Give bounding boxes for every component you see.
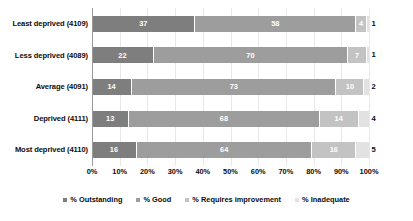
segment-value: 13 [106,115,114,122]
legend-item[interactable]: % Requires improvement [185,196,281,203]
segment-value: 70 [246,52,254,59]
bar-track: 227071 [92,40,369,72]
category-rows: Least deprived (4109)375841Less deprived… [0,8,413,166]
x-axis-tick-label: 40% [195,168,210,175]
x-axis-tick-label: 50% [223,168,238,175]
chart-row: Average (4091)1473102 [0,71,413,103]
legend-label: % Inadequate [302,196,350,203]
stacked-bar: 1368144 [92,111,369,127]
legend-label: % Good [143,196,171,203]
segment-value: 73 [230,83,238,90]
legend-item[interactable]: % Inadequate [295,196,350,203]
x-axis-tick-label: 100% [360,168,379,175]
bar-segment: 68 [128,111,318,127]
segment-value: 68 [220,115,228,122]
stacked-bar: 1473102 [92,79,369,95]
bar-segment: 2 [363,79,369,95]
category-label: Deprived (4111) [0,115,92,123]
segment-value: 22 [118,52,126,59]
bar-segment: 64 [136,142,312,158]
chart-row: Less deprived (4089)227071 [0,40,413,72]
x-axis: 0%10%20%30%40%50%60%70%80%90%100% [92,168,369,182]
x-axis-tick-label: 10% [112,168,127,175]
segment-value: 64 [220,146,228,153]
bar-track: 1473102 [92,71,369,103]
chart-legend: % Outstanding% Good% Requires improvemen… [0,196,413,203]
segment-value: 37 [139,20,147,27]
bar-segment: 37 [92,16,194,32]
plot-area: Least deprived (4109)375841Less deprived… [0,8,413,166]
segment-value: 2 [371,83,375,91]
x-axis-tick-label: 60% [251,168,266,175]
bar-segment: 22 [92,47,153,63]
bar-segment: 16 [92,142,136,158]
legend-item[interactable]: % Good [136,196,171,203]
stacked-bar: 375841 [92,16,369,32]
bar-segment: 58 [194,16,355,32]
segment-value: 16 [330,146,338,153]
chart-row: Most deprived (4110)1664165 [0,134,413,166]
bar-segment: 5 [355,142,369,158]
legend-item[interactable]: % Outstanding [63,196,122,203]
bar-segment: 1 [366,16,369,32]
segment-value: 16 [110,146,118,153]
category-label: Average (4091) [0,83,92,91]
legend-label: % Outstanding [70,196,122,203]
stacked-bar: 1664165 [92,142,369,158]
x-axis-tick-label: 80% [306,168,321,175]
category-label: Most deprived (4110) [0,146,92,154]
bar-segment: 14 [92,79,131,95]
bar-segment: 16 [311,142,355,158]
bar-segment: 70 [153,47,347,63]
chart-row: Deprived (4111)1368144 [0,103,413,135]
bar-track: 375841 [92,8,369,40]
x-axis-tick-label: 0% [87,168,98,175]
legend-swatch-icon [295,198,299,202]
bar-segment: 4 [358,111,369,127]
bar-segment: 7 [347,47,366,63]
segment-value: 1 [371,52,375,60]
bar-segment: 13 [92,111,128,127]
category-label: Less deprived (4089) [0,52,92,60]
x-axis-tick-label: 90% [334,168,349,175]
legend-swatch-icon [136,198,140,202]
bar-track: 1664165 [92,134,369,166]
segment-value: 7 [355,52,359,59]
bar-segment: 73 [131,79,335,95]
segment-value: 4 [371,115,375,123]
segment-value: 1 [371,20,375,28]
segment-value: 14 [107,83,115,90]
category-label: Least deprived (4109) [0,20,92,28]
segment-value: 14 [335,115,343,122]
segment-value: 10 [346,83,354,90]
bar-segment: 4 [355,16,366,32]
stacked-bar: 227071 [92,47,369,63]
segment-value: 4 [359,20,363,27]
legend-label: % Requires improvement [192,196,281,203]
stacked-bar-chart: Least deprived (4109)375841Less deprived… [0,0,413,221]
legend-swatch-icon [63,198,67,202]
chart-row: Least deprived (4109)375841 [0,8,413,40]
segment-value: 58 [271,20,279,27]
x-axis-tick-label: 70% [278,168,293,175]
legend-swatch-icon [185,198,189,202]
bar-segment: 14 [319,111,358,127]
bar-segment: 1 [366,47,369,63]
bar-segment: 10 [335,79,363,95]
segment-value: 5 [371,146,375,154]
y-axis-line [92,8,93,166]
x-axis-tick-label: 20% [140,168,155,175]
x-axis-tick-label: 30% [168,168,183,175]
bar-track: 1368144 [92,103,369,135]
